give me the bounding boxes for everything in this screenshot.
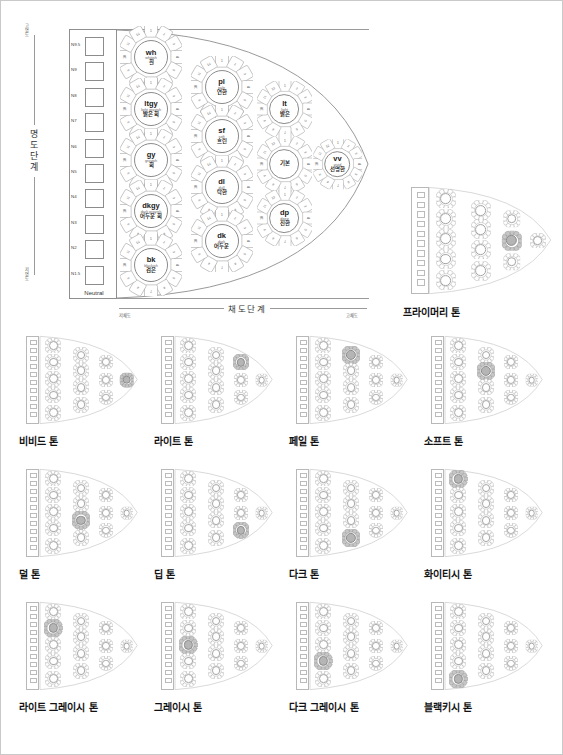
tone-hub[interactable]	[237, 642, 245, 650]
tone-hub[interactable]: dpdeep진한	[270, 203, 300, 233]
tone-hub[interactable]	[507, 257, 517, 267]
tone-node[interactable]	[315, 604, 331, 620]
tone-node[interactable]	[120, 640, 133, 653]
tone-node[interactable]	[99, 523, 113, 537]
tone-node[interactable]	[73, 347, 89, 363]
tone-node[interactable]	[343, 629, 359, 645]
tone-node[interactable]	[504, 506, 518, 520]
tone-node[interactable]	[208, 363, 224, 379]
tone-node[interactable]	[315, 471, 331, 487]
tone-node[interactable]	[180, 620, 196, 636]
tone-node[interactable]	[471, 261, 491, 281]
neutral-swatch[interactable]	[85, 62, 104, 81]
tone-node[interactable]	[45, 653, 61, 669]
tone-hub[interactable]	[123, 643, 130, 650]
tone-hub[interactable]	[102, 376, 110, 384]
tone-hub[interactable]	[372, 394, 380, 402]
tone-node[interactable]	[525, 374, 538, 387]
tone-hub[interactable]	[237, 624, 245, 632]
tone-node[interactable]	[369, 621, 383, 635]
tone-node[interactable]: 123456789101112ltlight밝은	[257, 81, 313, 137]
tone-node[interactable]	[99, 639, 113, 653]
tone-hub[interactable]	[372, 376, 380, 384]
tone-hub[interactable]	[102, 509, 110, 517]
tone-thumbnail[interactable]: 블랙키시 톤	[424, 597, 544, 716]
tone-node[interactable]	[343, 363, 359, 379]
tone-node[interactable]	[208, 663, 224, 679]
tone-node[interactable]: 123456789101112dkdark어두운	[191, 210, 253, 272]
tone-hub[interactable]: dldull탁한	[205, 170, 239, 204]
tone-node[interactable]	[99, 488, 113, 502]
tone-node[interactable]	[208, 645, 224, 661]
tone-node[interactable]	[99, 506, 113, 520]
tone-node[interactable]	[436, 270, 456, 290]
tone-node[interactable]: 123456789101112vvvivid선명한	[313, 139, 363, 189]
tone-hub[interactable]: ltlight밝은	[270, 94, 300, 124]
tone-node[interactable]	[44, 619, 62, 637]
tone-node[interactable]	[450, 504, 466, 520]
tone-hub[interactable]: gygrayish회	[134, 143, 168, 177]
tone-hub[interactable]	[372, 660, 380, 668]
tone-node[interactable]	[450, 387, 466, 403]
tone-node[interactable]	[208, 613, 224, 629]
tone-node[interactable]	[504, 488, 518, 502]
tone-node[interactable]	[180, 371, 196, 387]
tone-hub[interactable]	[372, 624, 380, 632]
tone-node[interactable]	[343, 663, 359, 679]
tone-node[interactable]	[477, 362, 495, 380]
tone-node[interactable]	[255, 374, 268, 387]
tone-node[interactable]	[45, 520, 61, 536]
tone-thumbnail[interactable]: 페일 톤	[289, 331, 409, 450]
tone-node[interactable]	[343, 512, 359, 528]
tone-hub[interactable]	[506, 235, 517, 246]
tone-node[interactable]	[73, 480, 89, 496]
tone-node[interactable]	[450, 371, 466, 387]
tone-node[interactable]	[504, 390, 518, 404]
tone-hub[interactable]: dkgydark grayish어두운 회	[134, 194, 168, 228]
tone-node[interactable]	[315, 487, 331, 503]
tone-node[interactable]	[315, 354, 331, 370]
tone-node[interactable]	[450, 354, 466, 370]
tone-hub[interactable]	[528, 643, 535, 650]
tone-node[interactable]	[73, 496, 89, 512]
neutral-swatch[interactable]	[85, 37, 104, 56]
tone-node[interactable]	[119, 373, 134, 388]
tone-node[interactable]	[471, 240, 491, 260]
tone-hub[interactable]	[372, 491, 380, 499]
tone-node[interactable]	[255, 507, 268, 520]
tone-node[interactable]	[234, 373, 248, 387]
tone-thumbnail[interactable]: 그레이시 톤	[154, 597, 274, 716]
tone-node[interactable]	[450, 520, 466, 536]
tone-node[interactable]	[180, 487, 196, 503]
tone-node[interactable]	[504, 373, 518, 387]
tone-node[interactable]	[436, 209, 456, 229]
tone-node[interactable]	[478, 480, 494, 496]
tone-node[interactable]: 123456789101112기본	[257, 136, 313, 192]
tone-hub[interactable]	[102, 394, 110, 402]
tone-hub[interactable]	[372, 527, 380, 535]
tone-hub[interactable]	[258, 377, 265, 384]
tone-node[interactable]	[120, 507, 133, 520]
neutral-swatch[interactable]	[85, 215, 104, 234]
tone-node[interactable]	[450, 338, 466, 354]
tone-node[interactable]	[99, 390, 113, 404]
neutral-swatch[interactable]	[85, 164, 104, 183]
tone-node[interactable]	[504, 639, 518, 653]
tone-node[interactable]	[343, 613, 359, 629]
tone-node[interactable]	[390, 374, 403, 387]
tone-node[interactable]	[471, 200, 491, 220]
tone-hub[interactable]: plpale연한	[205, 70, 239, 104]
tone-node[interactable]	[504, 523, 518, 537]
tone-node[interactable]	[45, 338, 61, 354]
tone-hub[interactable]	[237, 660, 245, 668]
tone-node[interactable]	[45, 387, 61, 403]
tone-node[interactable]	[180, 338, 196, 354]
tone-node[interactable]	[436, 249, 456, 269]
tone-node[interactable]	[233, 522, 249, 538]
tone-node[interactable]	[503, 210, 521, 228]
tone-node[interactable]	[72, 511, 90, 529]
tone-node[interactable]	[369, 523, 383, 537]
tone-node[interactable]	[180, 471, 196, 487]
tone-node[interactable]	[99, 621, 113, 635]
tone-node[interactable]	[450, 620, 466, 636]
